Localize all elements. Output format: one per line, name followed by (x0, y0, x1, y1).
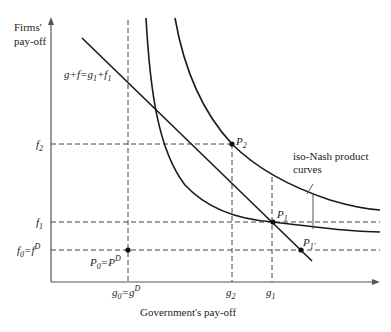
nash-bargaining-diagram: Firms' pay-off Government's pay-off f2 f… (0, 0, 391, 332)
point-p1-prime (298, 247, 303, 252)
y-axis-label-line1: Firms' (14, 21, 42, 33)
point-p1 (270, 219, 275, 224)
point-p0 (125, 247, 130, 252)
tick-f2: f2 (36, 138, 43, 153)
tick-g2: g2 (226, 286, 236, 301)
label-p1-prime: P1' (302, 236, 316, 251)
point-p2 (229, 141, 234, 146)
y-axis-label-line2: pay-off (14, 35, 47, 47)
y-axis-arrow-icon (48, 17, 54, 25)
tick-f1: f1 (36, 216, 43, 231)
annotation-line2: curves (293, 163, 322, 175)
x-axis-arrow-icon (372, 279, 380, 285)
label-p1: P1 (276, 208, 288, 223)
annotation-line1: iso-Nash product (293, 150, 368, 162)
outer-iso-nash-curve (175, 18, 380, 210)
x-axis-label: Government's pay-off (140, 306, 237, 318)
tick-f0: f0=fD (17, 242, 41, 259)
inner-iso-nash-curve (146, 18, 380, 232)
tick-g1: g1 (266, 286, 276, 301)
label-p0: P0=PD (89, 254, 121, 271)
constant-sum-line (82, 38, 312, 261)
constant-sum-line-label: g+f=g1+f1 (64, 68, 111, 83)
tick-g0: g0=gD (112, 284, 140, 301)
